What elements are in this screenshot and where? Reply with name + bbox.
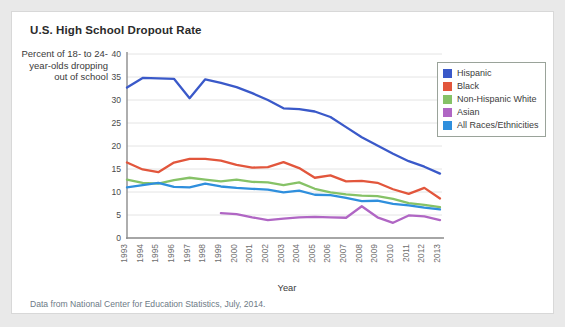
series-line-all-races-ethnicities <box>127 183 440 210</box>
legend-item[interactable]: All Races/Ethnicities <box>443 119 539 132</box>
x-tick-label: 1998 <box>197 244 207 263</box>
x-tick-label: 1996 <box>166 244 176 263</box>
x-tick-label: 2006 <box>322 244 332 263</box>
x-tick-label: 2012 <box>416 244 426 263</box>
legend-swatch-all-races <box>443 121 452 130</box>
x-axis-ticks: 1993199419951996199719981999200020012002… <box>119 244 442 263</box>
x-tick-label: 2000 <box>229 244 239 263</box>
legend-label-non-hispanic-white: Non-Hispanic White <box>457 95 537 104</box>
y-tick-label: 25 <box>111 118 121 128</box>
series-line-hispanic <box>127 78 440 174</box>
x-tick-label: 2001 <box>244 244 254 263</box>
x-tick-label: 2011 <box>401 244 411 262</box>
y-axis-ticks: 0510152025303540 <box>111 49 121 243</box>
legend-item[interactable]: Asian <box>443 106 539 119</box>
legend-item[interactable]: Non-Hispanic White <box>443 93 539 106</box>
source-note: Data from National Center for Education … <box>30 299 265 309</box>
x-tick-label: 2013 <box>432 244 442 263</box>
legend-label-asian: Asian <box>457 108 480 117</box>
x-tick-label: 1997 <box>182 244 192 263</box>
x-tick-label: 2008 <box>354 244 364 263</box>
x-tick-label: 1995 <box>150 244 160 263</box>
y-tick-label: 20 <box>111 141 121 151</box>
y-tick-label: 5 <box>116 210 121 220</box>
y-tick-label: 15 <box>111 164 121 174</box>
legend-item[interactable]: Hispanic <box>443 67 539 80</box>
x-tick-label: 2010 <box>385 244 395 263</box>
x-tick-label: 1994 <box>135 244 145 263</box>
x-tick-label: 2007 <box>338 244 348 263</box>
plot-area: 0510152025303540 19931994199519961997199… <box>12 12 555 315</box>
x-axis-label: Year <box>127 283 447 293</box>
x-tick-label: 2002 <box>260 244 270 263</box>
line-chart-svg: 0510152025303540 19931994199519961997199… <box>12 12 555 315</box>
y-tick-label: 0 <box>116 233 121 243</box>
y-tick-label: 30 <box>111 95 121 105</box>
legend-label-hispanic: Hispanic <box>457 69 492 78</box>
legend-item[interactable]: Black <box>443 80 539 93</box>
legend-label-black: Black <box>457 82 479 91</box>
y-tick-label: 35 <box>111 72 121 82</box>
chart-card: U.S. High School Dropout Rate Percent of… <box>11 11 554 314</box>
legend-swatch-non-hispanic-white <box>443 95 452 104</box>
y-tick-label: 40 <box>111 49 121 59</box>
legend-swatch-asian <box>443 108 452 117</box>
x-tick-label: 1999 <box>213 244 223 263</box>
x-tick-label: 1993 <box>119 244 129 263</box>
legend-label-all-races: All Races/Ethnicities <box>457 121 539 130</box>
legend: Hispanic Black Non-Hispanic White Asian … <box>437 62 546 137</box>
x-tick-label: 2004 <box>291 244 301 263</box>
y-tick-label: 10 <box>111 187 121 197</box>
legend-swatch-hispanic <box>443 69 452 78</box>
legend-swatch-black <box>443 82 452 91</box>
x-tick-label: 2009 <box>369 244 379 263</box>
x-tick-label: 2003 <box>276 244 286 263</box>
x-tick-label: 2005 <box>307 244 317 263</box>
gridlines <box>127 54 442 238</box>
